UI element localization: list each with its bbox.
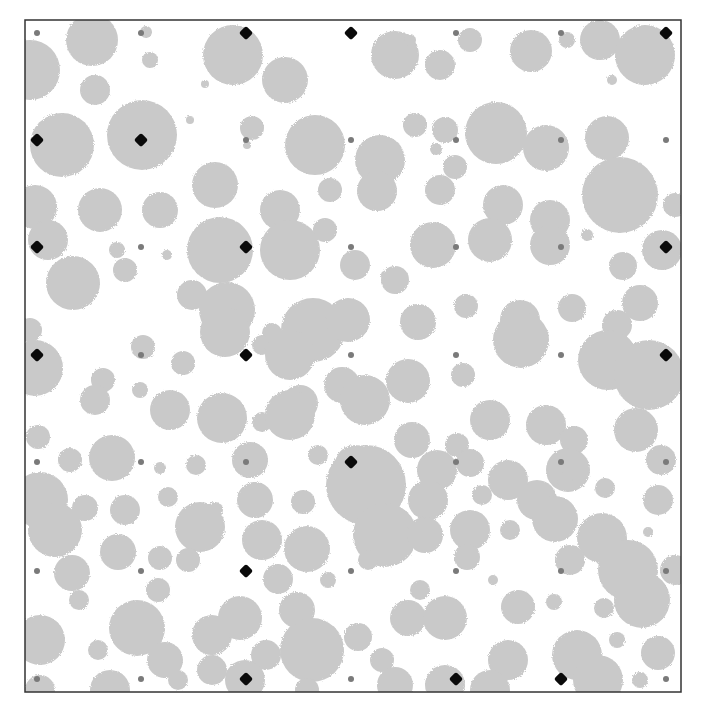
blob: [340, 375, 390, 425]
blob: [558, 294, 586, 322]
grid-dot: [348, 352, 354, 358]
blob: [203, 25, 263, 85]
blob: [472, 485, 492, 505]
blob: [530, 225, 570, 265]
blob: [523, 125, 569, 171]
blob: [154, 462, 166, 474]
blob: [237, 482, 273, 518]
blob: [581, 229, 593, 241]
grid-dot: [558, 30, 564, 36]
blob: [162, 250, 172, 260]
blob: [425, 175, 455, 205]
grid-dot: [243, 459, 249, 465]
blob: [260, 220, 320, 280]
blob: [407, 517, 443, 553]
figure-canvas: [0, 0, 702, 714]
blob: [646, 445, 676, 475]
grid-dot: [138, 459, 144, 465]
blob: [423, 596, 467, 640]
blob: [110, 495, 140, 525]
blob: [148, 546, 172, 570]
blob: [218, 596, 262, 640]
blob: [430, 143, 442, 155]
blob: [80, 75, 110, 105]
blob: [88, 640, 108, 660]
grid-dot: [34, 459, 40, 465]
blob: [458, 28, 482, 52]
blob: [242, 520, 282, 560]
blob: [240, 116, 264, 140]
blob: [28, 503, 82, 557]
blob: [454, 544, 480, 570]
blob: [450, 510, 490, 550]
blob: [386, 359, 430, 403]
blob: [197, 655, 227, 685]
blob: [358, 550, 378, 570]
blob: [526, 405, 566, 445]
blob: [146, 578, 170, 602]
blob: [320, 572, 336, 588]
blob: [197, 393, 247, 443]
blob: [582, 157, 658, 233]
blob: [46, 256, 100, 310]
grid-dot: [348, 568, 354, 574]
grid-dot: [453, 352, 459, 358]
blob: [404, 34, 416, 46]
blob: [280, 618, 344, 682]
grid-dot: [663, 137, 669, 143]
blob: [595, 478, 615, 498]
blob: [451, 363, 475, 387]
blob: [493, 312, 549, 368]
blob: [607, 75, 617, 85]
grid-dot: [453, 244, 459, 250]
blob: [89, 435, 135, 481]
blob: [171, 351, 195, 375]
grid-dot: [663, 459, 669, 465]
grid-dot: [453, 137, 459, 143]
grid-dot: [138, 244, 144, 250]
grid-dot: [663, 568, 669, 574]
grid-dot: [558, 568, 564, 574]
blob: [641, 636, 675, 670]
blob: [318, 178, 342, 202]
blob: [643, 485, 673, 515]
blob: [488, 575, 498, 585]
blob: [465, 102, 527, 164]
blob: [109, 242, 125, 258]
blob: [609, 632, 625, 648]
blob: [614, 408, 658, 452]
blob: [340, 250, 370, 280]
blob: [100, 534, 136, 570]
grid-dot: [453, 459, 459, 465]
blob: [357, 171, 397, 211]
blob: [456, 449, 484, 477]
blob: [532, 496, 578, 542]
grid-dot: [453, 568, 459, 574]
blob: [381, 271, 389, 279]
blob: [30, 113, 94, 177]
grid-dot: [34, 30, 40, 36]
blob: [113, 258, 137, 282]
blob: [201, 80, 209, 88]
blob: [54, 555, 90, 591]
grid-dot: [558, 137, 564, 143]
blob: [291, 490, 315, 514]
blob: [313, 218, 337, 242]
blob: [192, 162, 238, 208]
blob: [425, 50, 455, 80]
grid-dot: [663, 676, 669, 682]
grid-dot: [138, 30, 144, 36]
blob: [585, 116, 629, 160]
blob: [232, 442, 268, 478]
blob: [557, 472, 573, 488]
blob: [265, 390, 315, 440]
blob: [454, 294, 478, 318]
blob: [186, 455, 206, 475]
blob: [410, 222, 456, 268]
grid-dot: [348, 676, 354, 682]
blob: [263, 564, 293, 594]
blob: [168, 670, 188, 690]
blob: [200, 307, 250, 357]
blob: [580, 20, 620, 60]
blob: [175, 502, 225, 552]
